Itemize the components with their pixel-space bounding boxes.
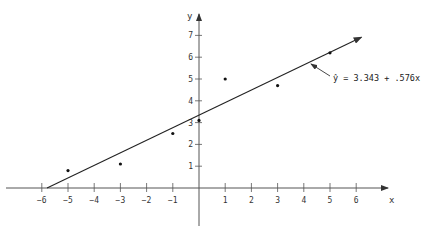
x-tick-label: −1 — [168, 196, 178, 205]
regression-equation: ŷ = 3.343 + .576x — [333, 73, 420, 83]
x-tick-label: −4 — [89, 196, 99, 205]
y-tick-label: 6 — [188, 53, 193, 62]
x-tick-label: −5 — [63, 196, 73, 205]
regression-plot: −6−5−4−3−2−1123456 1234567 x y ŷ = 3.343… — [0, 0, 433, 233]
y-tick-label: 2 — [188, 140, 193, 149]
x-axis-ticks: −6−5−4−3−2−1123456 — [37, 183, 359, 205]
x-tick-label: 3 — [275, 196, 280, 205]
data-point — [328, 51, 331, 54]
x-tick-label: 1 — [223, 196, 228, 205]
data-point — [66, 169, 69, 172]
x-tick-label: −2 — [142, 196, 152, 205]
annotation-arrow — [311, 64, 330, 76]
y-axis-label: y — [187, 11, 193, 21]
x-axis-label: x — [389, 195, 395, 205]
data-point — [197, 119, 200, 122]
data-point — [224, 77, 227, 80]
y-axis-ticks: 1234567 — [188, 31, 202, 171]
data-point — [276, 84, 279, 87]
y-tick-label: 7 — [188, 31, 193, 40]
x-tick-label: −3 — [116, 196, 126, 205]
x-tick-label: 4 — [301, 196, 306, 205]
x-tick-label: 2 — [249, 196, 254, 205]
y-tick-label: 5 — [188, 75, 193, 84]
x-tick-label: −6 — [37, 196, 47, 205]
regression-line — [47, 37, 361, 188]
y-tick-label: 4 — [188, 97, 193, 106]
x-tick-label: 5 — [328, 196, 333, 205]
y-tick-label: 1 — [188, 162, 193, 171]
data-point — [171, 132, 174, 135]
x-tick-label: 6 — [354, 196, 359, 205]
data-point — [119, 162, 122, 165]
